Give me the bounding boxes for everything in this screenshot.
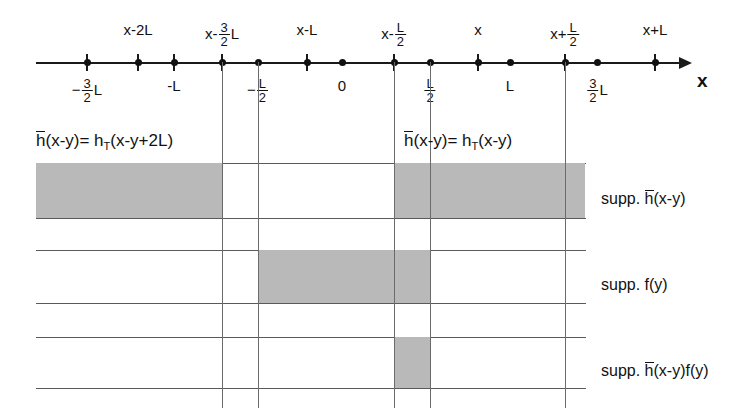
overline-h: h — [645, 191, 654, 207]
axis-tick-label: x-32L — [205, 22, 239, 49]
number-line-axis — [36, 62, 681, 64]
horizontal-rail-line — [36, 218, 586, 219]
caption-supp-f: supp. f(y) — [601, 277, 668, 293]
axis-tick-label: x-L — [297, 22, 318, 37]
axis-tick-dot — [135, 59, 142, 66]
axis-tick-dot — [507, 59, 514, 66]
vertical-guide-line-overlay — [394, 62, 395, 408]
block-h-right — [394, 163, 585, 218]
axis-tick-label: 32L — [586, 78, 608, 105]
fraction: 32 — [218, 21, 229, 48]
caption-supp-hf: supp. h(x-y)f(y) — [601, 363, 709, 379]
axis-tick-dot — [171, 59, 178, 66]
vertical-guide-line-overlay — [565, 62, 566, 408]
horizontal-rail-line — [36, 337, 586, 338]
block-f — [258, 250, 430, 303]
figure-canvas: x x-2Lx-32Lx-Lx-L2xx+L2x+L −32L-L−L20L2L… — [0, 0, 744, 414]
axis-tick-label: L — [506, 78, 514, 93]
horizontal-rail-line — [36, 388, 586, 389]
horizontal-rail-line — [36, 303, 586, 304]
axis-tick-dot — [84, 59, 91, 66]
eq-left: h(x-y)= hT(x-y+2L) — [36, 132, 173, 152]
overline-h: h — [645, 363, 654, 379]
axis-tick-dot — [652, 59, 659, 66]
fraction: 32 — [587, 77, 598, 104]
axis-tick-label: x+L2 — [550, 22, 580, 49]
axis-tick-label: −32L — [72, 78, 102, 105]
axis-arrowhead — [679, 57, 692, 69]
vertical-guide-line-overlay — [258, 62, 259, 408]
subscript-T: T — [104, 140, 111, 152]
axis-tick-dot — [339, 59, 346, 66]
vertical-guide-line-overlay — [430, 62, 431, 408]
axis-tick-label: x-L2 — [381, 22, 407, 49]
overline-h: h — [404, 132, 413, 149]
axis-tick-label: x+L — [643, 22, 668, 37]
axis-tick-label: 0 — [338, 78, 346, 93]
axis-tick-dot — [304, 59, 311, 66]
caption-supp-h: supp. h(x-y) — [601, 191, 685, 207]
fraction: L2 — [395, 21, 406, 48]
overline-h: h — [36, 132, 45, 149]
axis-tick-label: x — [474, 22, 482, 37]
fraction: 32 — [82, 77, 93, 104]
vertical-guide-line-overlay — [222, 62, 223, 408]
fraction: L2 — [568, 21, 579, 48]
axis-label-x: x — [697, 70, 708, 92]
eq-right: h(x-y)= hT(x-y) — [404, 132, 512, 152]
axis-tick-label: x-2L — [123, 22, 152, 37]
axis-tick-label: -L — [167, 78, 180, 93]
axis-tick-dot — [594, 59, 601, 66]
block-h-left — [36, 163, 222, 218]
subscript-T: T — [472, 140, 479, 152]
block-hf — [394, 337, 430, 388]
axis-tick-dot — [475, 59, 482, 66]
